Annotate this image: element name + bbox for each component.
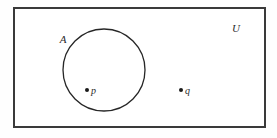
set-a-label: A	[59, 33, 67, 45]
universal-set-label: U	[232, 22, 241, 34]
venn-diagram-svg: U A p q	[0, 0, 277, 138]
point-q-label: q	[185, 85, 190, 96]
point-q-dot	[179, 88, 183, 92]
point-p-dot	[85, 88, 89, 92]
universal-set-rectangle	[14, 8, 265, 127]
point-p-label: p	[90, 85, 96, 96]
set-diagram-canvas: U A p q	[0, 0, 277, 138]
